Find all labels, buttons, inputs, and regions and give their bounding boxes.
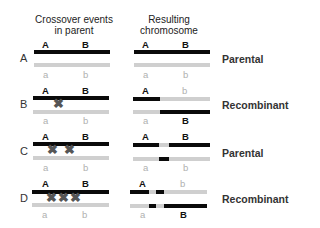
result-chromosome [134, 63, 210, 67]
allele-B: B [182, 131, 189, 142]
allele-A: A [42, 178, 49, 189]
allele-a: a [42, 209, 47, 220]
result-segment [169, 143, 210, 147]
result-label: Parental [222, 147, 263, 159]
crossover-icon: ✖ [64, 145, 75, 155]
result-segment [160, 97, 210, 101]
result-segment [149, 190, 156, 194]
result-segment [130, 204, 149, 208]
row-label: D [20, 192, 28, 204]
allele-a: a [143, 69, 148, 80]
parent-chromosome-recessive [32, 203, 109, 207]
row-label: B [20, 98, 27, 110]
header-line: Crossover events [28, 14, 120, 25]
allele-A: A [139, 178, 146, 189]
result-segment [160, 110, 210, 114]
result-label: Recombinant [222, 193, 289, 205]
result-segment [169, 157, 210, 161]
result-label: Recombinant [222, 99, 289, 111]
result-segment [133, 110, 160, 114]
result-segment [133, 143, 159, 147]
allele-b: b [83, 115, 88, 126]
crossover-icon: ✖ [46, 193, 57, 203]
result-segment [159, 143, 169, 147]
allele-B: B [82, 178, 89, 189]
row-label: C [20, 145, 28, 157]
allele-B: B [182, 115, 189, 126]
allele-B: B [82, 131, 89, 142]
result-chromosome [134, 50, 210, 54]
allele-B: B [82, 85, 89, 96]
result-segment [149, 204, 156, 208]
crossover-icon: ✖ [53, 99, 64, 109]
allele-A: A [142, 85, 149, 96]
parent-chromosome-dominant [33, 96, 109, 100]
parent-chromosome-recessive [34, 63, 110, 67]
header-line: in parent [28, 25, 120, 36]
result-label: Parental [222, 53, 263, 65]
result-segment [159, 157, 169, 161]
allele-b: b [180, 178, 185, 189]
allele-a: a [43, 69, 48, 80]
parent-chromosome-recessive [33, 156, 109, 160]
allele-b: b [83, 69, 88, 80]
allele-b: b [83, 162, 88, 173]
allele-a: a [140, 209, 145, 220]
allele-B: B [182, 39, 189, 50]
header-crossover-events: Crossover events in parent [28, 14, 120, 36]
allele-B: B [180, 209, 187, 220]
allele-A: A [42, 131, 49, 142]
allele-A: A [142, 39, 149, 50]
header-line: Resulting [128, 14, 210, 25]
result-segment [130, 190, 149, 194]
crossover-icon: ✖ [58, 193, 69, 203]
result-segment [164, 204, 207, 208]
allele-A: A [42, 85, 49, 96]
header-resulting-chromosome: Resulting chromosome [128, 14, 210, 36]
allele-A: A [142, 131, 149, 142]
header-line: chromosome [128, 25, 210, 36]
allele-b: b [82, 209, 87, 220]
result-segment [156, 190, 164, 194]
allele-A: A [42, 39, 49, 50]
row-label: A [20, 52, 27, 64]
parent-chromosome-dominant [34, 50, 110, 54]
allele-b: b [183, 162, 188, 173]
allele-a: a [43, 115, 48, 126]
allele-B: B [82, 39, 89, 50]
result-segment [133, 157, 159, 161]
crossover-icon: ✖ [47, 145, 58, 155]
result-segment [133, 97, 160, 101]
allele-a: a [143, 115, 148, 126]
allele-b: b [182, 85, 187, 96]
parent-chromosome-recessive [33, 110, 109, 114]
allele-a: a [43, 162, 48, 173]
result-segment [164, 190, 207, 194]
allele-a: a [143, 162, 148, 173]
result-segment [156, 204, 164, 208]
allele-b: b [183, 69, 188, 80]
crossover-icon: ✖ [70, 193, 81, 203]
